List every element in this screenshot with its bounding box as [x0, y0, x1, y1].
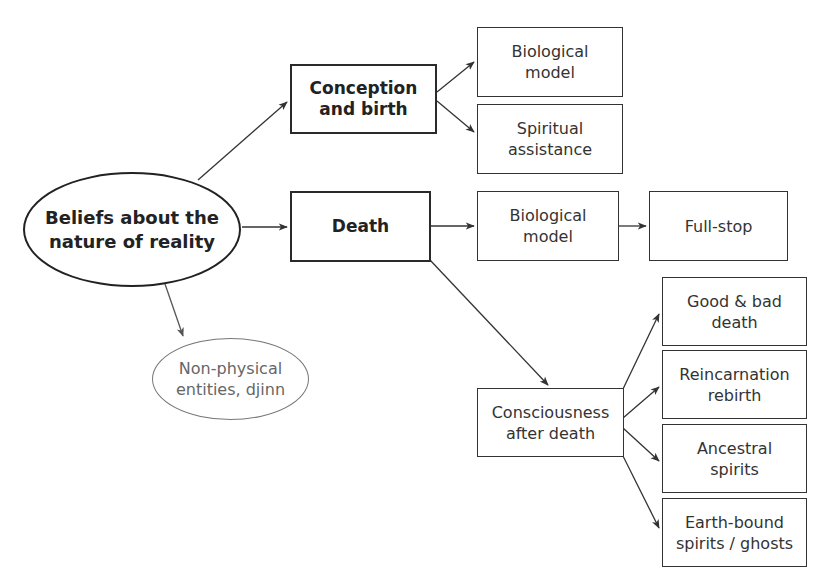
- node-conception-birth: Conception and birth: [290, 64, 437, 134]
- reincarnation-label: Reincarnation rebirth: [679, 364, 789, 406]
- node-full-stop: Full-stop: [649, 191, 788, 261]
- node-death: Death: [290, 191, 431, 262]
- edge-consc-reincarnation: [623, 387, 659, 418]
- conception-label: Conception and birth: [310, 78, 418, 120]
- edge-death-consciousness: [430, 260, 548, 385]
- node-non-physical-entities: Non-physical entities, djinn: [152, 338, 309, 420]
- root-label: Beliefs about the nature of reality: [45, 206, 219, 254]
- earth-bound-label: Earth-bound spirits / ghosts: [676, 512, 793, 554]
- node-spiritual-assistance: Spiritual assistance: [477, 104, 623, 174]
- node-good-bad-death: Good & bad death: [662, 277, 807, 346]
- edge-consc-ancestral: [623, 428, 659, 461]
- ancestral-spirits-label: Ancestral spirits: [697, 438, 772, 480]
- root-node-beliefs: Beliefs about the nature of reality: [23, 172, 241, 287]
- edge-conception-spirit: [437, 101, 474, 132]
- edge-root-nonphysical: [165, 284, 183, 336]
- non-physical-label: Non-physical entities, djinn: [176, 358, 285, 400]
- edge-consc-earthbound: [623, 456, 659, 528]
- node-earth-bound-spirits: Earth-bound spirits / ghosts: [662, 498, 807, 567]
- full-stop-label: Full-stop: [685, 216, 753, 237]
- spiritual-assistance-label: Spiritual assistance: [508, 118, 592, 160]
- consciousness-label: Consciousness after death: [492, 402, 610, 444]
- edge-consc-good: [623, 314, 659, 389]
- edge-conception-bio: [437, 62, 474, 92]
- good-bad-death-label: Good & bad death: [687, 291, 782, 333]
- death-label: Death: [332, 216, 389, 237]
- edge-root-conception: [198, 102, 287, 180]
- node-consciousness-after-death: Consciousness after death: [477, 388, 624, 457]
- conception-bio-label: Biological model: [511, 41, 588, 83]
- node-death-biological-model: Biological model: [477, 191, 619, 261]
- node-ancestral-spirits: Ancestral spirits: [662, 424, 807, 493]
- node-conception-biological-model: Biological model: [477, 27, 623, 97]
- death-bio-label: Biological model: [509, 205, 586, 247]
- node-reincarnation-rebirth: Reincarnation rebirth: [662, 350, 807, 419]
